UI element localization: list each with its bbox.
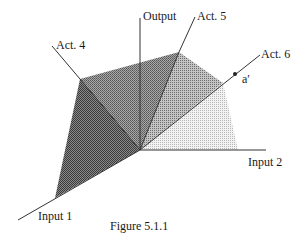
- label-act5: Act. 5: [197, 9, 226, 23]
- label-act4: Act. 4: [56, 38, 85, 52]
- label-a-prime: a′: [242, 72, 250, 86]
- production-cone-diagram: Output Act. 5 Act. 4 Act. 6 a′ Input 2 I…: [0, 0, 299, 234]
- label-input2: Input 2: [248, 155, 282, 169]
- label-act6: Act. 6: [261, 47, 290, 61]
- point-a-prime: [233, 72, 237, 76]
- ray-act5: [179, 17, 195, 52]
- figure-caption: Figure 5.1.1: [110, 219, 168, 233]
- label-output: Output: [143, 9, 177, 23]
- label-input1: Input 1: [38, 209, 72, 223]
